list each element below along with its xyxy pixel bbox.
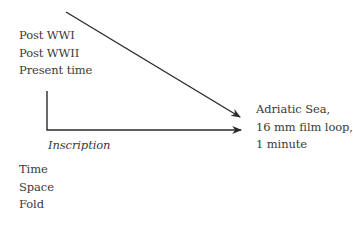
target-line: 1 minute — [256, 136, 353, 154]
edge-label-inscription: Inscription — [48, 137, 110, 155]
target-line: 16 mm film loop, — [256, 119, 353, 137]
target-description: Adriatic Sea, 16 mm film loop, 1 minute — [256, 101, 353, 154]
time-periods-list: Post WWI Post WWII Present time — [19, 27, 92, 80]
target-line: Adriatic Sea, — [256, 101, 353, 119]
concepts-list: Time Space Fold — [19, 161, 54, 214]
concept-item: Space — [19, 179, 54, 197]
elbow-arrow — [47, 91, 241, 130]
concept-item: Fold — [19, 196, 54, 214]
period-item: Present time — [19, 62, 92, 80]
period-item: Post WWII — [19, 45, 92, 63]
concept-item: Time — [19, 161, 54, 179]
period-item: Post WWI — [19, 27, 92, 45]
